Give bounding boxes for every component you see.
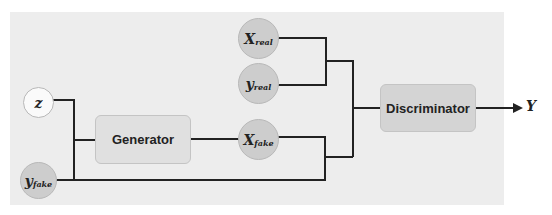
cgan-diagram: z yfake Xreal yreal Xfake Generator Disc…	[0, 0, 552, 215]
generator-block: Generator	[95, 115, 191, 164]
node-x-real: Xreal	[238, 18, 279, 59]
node-x-fake: Xfake	[238, 119, 279, 160]
node-y-real: yreal	[238, 63, 279, 104]
discriminator-block: Discriminator	[380, 84, 476, 132]
arrow-head-icon	[513, 103, 523, 113]
output-y-label: Y	[526, 98, 536, 114]
node-z: z	[23, 87, 54, 118]
node-y-fake: yfake	[20, 162, 57, 199]
